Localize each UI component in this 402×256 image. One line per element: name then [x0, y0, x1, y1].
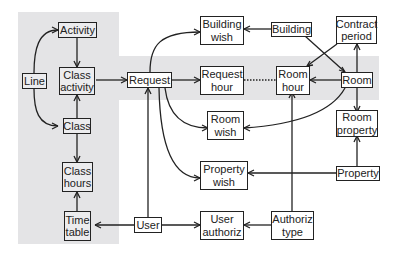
entity-room-hour[interactable]: Room hour [276, 66, 310, 95]
entity-time-table[interactable]: Time table [64, 211, 91, 241]
entity-property[interactable]: Property [336, 166, 380, 181]
entity-class[interactable]: Class [63, 118, 91, 134]
edge-line-class [34, 89, 58, 126]
entity-line[interactable]: Line [22, 73, 47, 89]
entity-authoriz-type[interactable]: Authoriz type [271, 211, 314, 240]
entity-contract-period[interactable]: Contract period [336, 16, 377, 44]
entity-room-property[interactable]: Room property [336, 110, 378, 137]
entity-building[interactable]: Building [271, 22, 312, 37]
entity-room-wish[interactable]: Room wish [207, 111, 244, 140]
entity-request[interactable]: Request [127, 72, 172, 88]
entity-room[interactable]: Room [341, 72, 373, 88]
entity-request-hour[interactable]: Request hour [200, 66, 244, 95]
edge-line-activity [34, 30, 58, 73]
entity-building-wish[interactable]: Building wish [200, 16, 244, 45]
entity-user[interactable]: User [134, 217, 162, 233]
entity-class-activity[interactable]: Class activity [59, 67, 95, 95]
entity-property-wish[interactable]: Property wish [200, 161, 248, 190]
entity-user-authoriz[interactable]: User authoriz [200, 211, 244, 240]
entity-activity[interactable]: Activity [58, 22, 97, 38]
entity-class-hours[interactable]: Class hours [62, 162, 93, 192]
